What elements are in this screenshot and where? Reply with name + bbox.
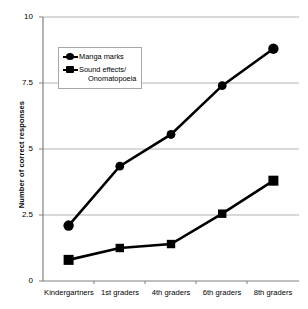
data-point xyxy=(268,176,278,186)
data-point xyxy=(115,162,124,171)
data-point xyxy=(268,43,278,53)
data-point xyxy=(167,240,175,248)
x-tick-label-4th-graders: 4th graders xyxy=(152,288,190,297)
data-point xyxy=(63,220,73,230)
data-point xyxy=(167,130,176,139)
plot-area xyxy=(0,0,308,309)
data-point xyxy=(218,209,226,217)
data-point xyxy=(64,255,74,265)
legend: Manga marks Sound effects/ Onomatopoeia xyxy=(58,47,142,89)
square-marker-icon xyxy=(63,65,78,74)
x-tick-label-kindergartners: Kindergartners xyxy=(44,288,94,297)
data-point xyxy=(218,81,227,90)
circle-marker-icon xyxy=(63,52,78,61)
line-chart: Number of correct responses 10 7.5 5 2.5… xyxy=(0,0,308,309)
legend-label-line2: Onomatopoeia xyxy=(79,74,136,83)
legend-item-sound-effects: Sound effects/ Onomatopoeia xyxy=(63,65,136,83)
legend-label-wrap: Sound effects/ Onomatopoeia xyxy=(78,65,136,83)
x-tick-label-6th-graders: 6th graders xyxy=(203,288,241,297)
legend-label: Sound effects/ xyxy=(79,65,126,74)
x-tick-label-1st-graders: 1st graders xyxy=(101,288,139,297)
data-point xyxy=(116,244,124,252)
x-tick-label-8th-graders: 8th graders xyxy=(254,288,292,297)
series-sound-effects xyxy=(64,176,279,265)
legend-item-manga-marks: Manga marks xyxy=(63,52,124,61)
legend-label: Manga marks xyxy=(78,52,124,61)
